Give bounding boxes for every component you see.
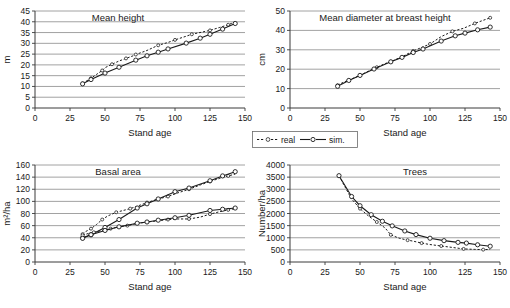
data-point (173, 216, 177, 220)
y-tick-label: 50 (276, 6, 286, 16)
data-point (221, 207, 225, 211)
x-tick-label: 25 (65, 267, 75, 277)
data-point (145, 54, 149, 58)
data-point (134, 53, 137, 56)
y-tick-label: 10 (276, 84, 286, 94)
x-tick-label: 125 (203, 267, 217, 277)
x-tick-label: 75 (390, 113, 400, 123)
data-point (198, 36, 202, 40)
data-point (442, 239, 446, 243)
y-tick-label: 20 (21, 60, 31, 70)
legend: realsim. (252, 131, 358, 148)
data-point (134, 58, 138, 62)
y-tick-label: 1500 (266, 221, 285, 231)
series-sim- (81, 21, 238, 86)
data-point (336, 84, 340, 88)
x-tick-label: 0 (288, 267, 293, 277)
x-tick-label: 75 (135, 267, 145, 277)
data-point (208, 32, 212, 36)
data-point (456, 240, 460, 244)
data-point (117, 217, 121, 221)
data-point (184, 41, 188, 45)
data-point (421, 47, 425, 51)
data-point (101, 218, 104, 221)
data-point (350, 194, 354, 198)
data-point (451, 30, 454, 33)
x-tick-label: 75 (390, 267, 400, 277)
y-axis-label: m²/ha (1, 201, 12, 226)
data-point (462, 247, 465, 250)
y-tick-label: 35 (21, 28, 31, 38)
series-sim-lower (81, 206, 238, 241)
data-point (125, 57, 128, 60)
data-point (90, 227, 93, 230)
y-tick-label: 4000 (266, 160, 285, 170)
data-point (103, 228, 107, 232)
x-tick-label: 125 (203, 113, 217, 123)
data-point (389, 233, 392, 236)
data-point (476, 28, 480, 32)
axes: 010203040500255075100125150 (276, 6, 508, 123)
data-point (389, 60, 393, 64)
y-axis-label: m (1, 55, 12, 63)
data-point (135, 221, 139, 225)
series-real (338, 174, 491, 251)
data-point (208, 179, 212, 183)
data-point (103, 71, 107, 75)
chart-basal-area: 0204060801001201401600255075100125150m²/… (0, 154, 255, 294)
gridlines (290, 165, 500, 250)
x-tick-label: 100 (423, 113, 437, 123)
x-tick-label: 25 (65, 113, 75, 123)
plot-title: Mean height (92, 12, 145, 23)
y-tick-label: 160 (16, 160, 30, 170)
legend-label-real: real (281, 135, 295, 145)
y-tick-label: 0 (25, 257, 30, 267)
y-tick-label: 40 (276, 25, 286, 35)
data-point (420, 242, 423, 245)
data-point (115, 211, 118, 214)
panel-trees: 0500100015002000250030003500400002550751… (255, 154, 510, 294)
data-point (414, 233, 418, 237)
data-point (233, 206, 237, 210)
y-tick-label: 15 (21, 71, 31, 81)
data-point (166, 47, 170, 51)
x-tick-label: 0 (33, 113, 38, 123)
y-tick-label: 3000 (266, 184, 285, 194)
x-tick-label: 150 (238, 267, 252, 277)
data-point (403, 229, 407, 233)
data-point (337, 174, 341, 178)
data-point (406, 239, 409, 242)
plot-title: Basal area (95, 166, 141, 177)
x-tick-label: 150 (493, 267, 507, 277)
gridlines (35, 165, 245, 250)
x-tick-label: 75 (135, 113, 145, 123)
data-point (390, 224, 394, 228)
x-tick-label: 0 (288, 113, 293, 123)
x-axis-label: Stand age (128, 127, 171, 138)
legend-label-sim: sim. (329, 135, 345, 145)
data-point (208, 208, 212, 212)
chart-mean-height: 0510152025303540450255075100125150mStand… (0, 0, 255, 140)
data-point (489, 16, 492, 19)
series-group (81, 21, 238, 86)
y-tick-label: 500 (271, 245, 285, 255)
x-tick-label: 100 (423, 267, 437, 277)
x-tick-label: 50 (355, 113, 365, 123)
data-point (135, 206, 139, 210)
data-point (156, 218, 160, 222)
y-tick-label: 0 (280, 103, 285, 113)
y-tick-label: 100 (16, 196, 30, 206)
y-tick-label: 0 (25, 103, 30, 113)
plot-title: Trees (403, 166, 427, 177)
chart-mean-diameter-breast-height: 010203040500255075100125150cmStand ageMe… (255, 0, 510, 140)
data-point (358, 204, 362, 208)
data-point (89, 77, 93, 81)
data-point (347, 78, 351, 82)
panel-basal-area: 0204060801001201401600255075100125150m²/… (0, 154, 255, 294)
y-tick-label: 30 (21, 38, 31, 48)
data-point (221, 27, 225, 31)
data-point (233, 21, 237, 25)
data-point (156, 50, 160, 54)
data-point (190, 33, 193, 36)
x-tick-label: 0 (33, 267, 38, 277)
